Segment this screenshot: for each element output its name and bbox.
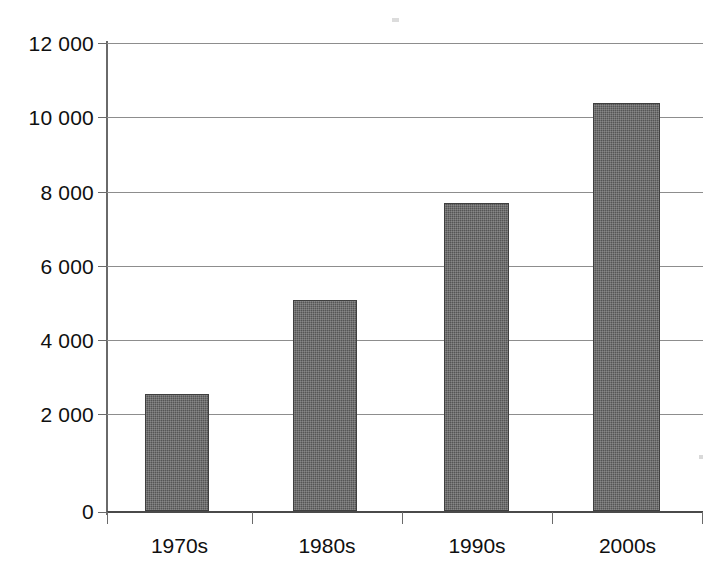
y-axis-label-2000: 2 000 — [2, 404, 94, 425]
x-axis-tick-start — [107, 512, 108, 524]
x-axis-label-1970s: 1970s — [107, 535, 252, 557]
y-axis-label-0: 0 — [2, 501, 94, 522]
x-axis-tick-3 — [552, 512, 553, 524]
x-axis-label-1980s: 1980s — [252, 535, 402, 557]
chart-screenshot: 12 000 10 000 8 000 6 000 4 000 2 000 0 … — [0, 0, 728, 580]
y-axis-label-6000: 6 000 — [2, 256, 94, 277]
gridline-baseline-0 — [107, 511, 703, 513]
x-axis-label-1990s: 1990s — [402, 535, 552, 557]
bar-1990s[interactable] — [444, 203, 509, 511]
scan-speck — [392, 18, 399, 22]
y-axis-label-12000: 12 000 — [2, 33, 94, 54]
bar-2000s[interactable] — [593, 103, 660, 511]
gridline-12000 — [107, 43, 703, 44]
x-axis-tick-1 — [252, 512, 253, 524]
x-axis-label-2000s: 2000s — [552, 535, 703, 557]
y-axis-label-10000: 10 000 — [2, 107, 94, 128]
bar-1970s[interactable] — [145, 394, 209, 511]
x-axis-tick-end — [702, 512, 703, 524]
x-axis-tick-2 — [402, 512, 403, 524]
y-axis-labels: 12 000 10 000 8 000 6 000 4 000 2 000 0 — [0, 0, 94, 580]
plot-area — [107, 43, 703, 512]
scan-speck — [699, 455, 703, 459]
y-axis-label-8000: 8 000 — [2, 182, 94, 203]
y-axis-label-4000: 4 000 — [2, 330, 94, 351]
bar-1980s[interactable] — [293, 300, 357, 511]
